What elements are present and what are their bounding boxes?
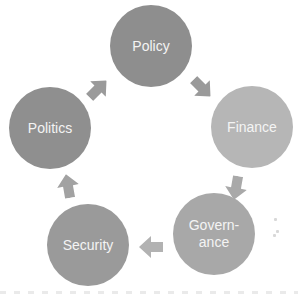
arrow-right-icon	[82, 73, 115, 106]
node-label-policy: Policy	[132, 38, 169, 55]
node-politics: Politics	[9, 87, 91, 169]
node-policy: Policy	[110, 5, 192, 87]
node-label-security: Security	[63, 237, 114, 254]
arrow-right-icon	[186, 72, 219, 105]
node-governance: Govern- ance	[173, 193, 255, 275]
arrow-right-icon	[55, 172, 81, 199]
arrow-right-icon	[139, 236, 163, 258]
node-label-politics: Politics	[28, 120, 72, 137]
node-security: Security	[47, 204, 129, 286]
node-finance: Finance	[211, 86, 293, 168]
scan-artifact-specks	[271, 216, 281, 240]
node-label-governance: Govern- ance	[189, 217, 240, 251]
arrow-right-icon	[223, 174, 249, 201]
node-label-finance: Finance	[227, 119, 277, 136]
scan-artifact-line	[0, 291, 298, 294]
